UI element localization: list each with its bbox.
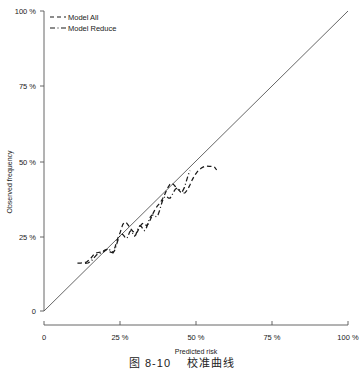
- y-tick-label-0: 0: [32, 307, 36, 316]
- y-axis-title: Observed frequency: [6, 150, 14, 214]
- y-tick-label-25: 25 %: [19, 233, 36, 242]
- x-axis-title: Predicted risk: [175, 348, 218, 355]
- x-tick-label-25: 25 %: [111, 333, 128, 342]
- caption-title: 校准曲线: [187, 357, 235, 369]
- figure-caption: 图 8-10 校准曲线: [0, 357, 364, 370]
- legend-label-model-all: Model All: [68, 13, 99, 22]
- x-tick-label-100: 100 %: [337, 333, 359, 342]
- legend-label-model-reduce: Model Reduce: [68, 24, 116, 33]
- x-tick-label-75: 75 %: [263, 333, 280, 342]
- y-tick-label-50: 50 %: [19, 158, 36, 167]
- caption-figure-number: 图 8-10: [129, 357, 171, 369]
- y-tick-label-100: 100 %: [15, 7, 37, 16]
- x-tick-label-0: 0: [42, 333, 46, 342]
- x-tick-label-50: 50 %: [187, 333, 204, 342]
- chart-background: [0, 0, 364, 370]
- calibration-curve-figure: 100 % 75 % 50 % 25 % 0 Observed frequenc…: [0, 0, 364, 370]
- chart-canvas: 100 % 75 % 50 % 25 % 0 Observed frequenc…: [0, 0, 364, 370]
- y-tick-label-75: 75 %: [19, 82, 36, 91]
